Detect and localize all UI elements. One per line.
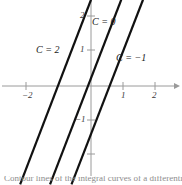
y-tick-label-2: 2 — [80, 11, 85, 20]
curve-1 — [50, 0, 121, 184]
y-tick-label--1: −1 — [75, 115, 86, 124]
x-axis-arrowhead — [174, 83, 180, 89]
curve-label-cminus1: C = −1 — [116, 53, 146, 63]
curve-label-c0: C = 0 — [92, 17, 115, 27]
contour-plot-figure: −2 1 2 2 1 −1 C = 2 C = 0 C = −1 Contour… — [0, 0, 182, 185]
caption-strip: Contour lines of the integral curves of … — [0, 176, 182, 185]
x-tick-label-2: 2 — [152, 91, 157, 100]
curve-2 — [72, 0, 144, 184]
curve-label-c2: C = 2 — [36, 45, 59, 55]
axis-group — [2, 0, 180, 176]
figure-caption: Contour lines of the integral curves of … — [4, 176, 182, 183]
x-tick-label-1: 1 — [121, 91, 126, 100]
y-tick-label-1: 1 — [80, 45, 85, 54]
x-tick-label--2: −2 — [22, 91, 33, 100]
